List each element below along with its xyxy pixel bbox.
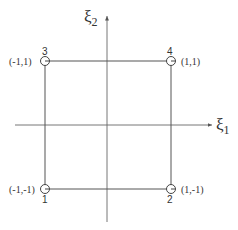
node-1-coords: (-1,-1) <box>9 184 35 196</box>
node-4-number: 4 <box>167 46 173 57</box>
node-3-coords: (-1,1) <box>9 56 32 68</box>
node-2-coords: (1,-1) <box>181 184 204 196</box>
node-4-coords: (1,1) <box>181 56 200 68</box>
node-3-number: 3 <box>42 46 48 57</box>
xi2-axis-label: ξ2 <box>84 7 98 29</box>
node-1-number: 1 <box>42 194 48 205</box>
xi1-axis-label: ξ1 <box>216 115 230 137</box>
node-2-number: 2 <box>167 194 173 205</box>
diagram-canvas: 3 4 1 2 (-1,1) (1,1) (-1,-1) (1,-1) ξ2 ξ… <box>0 0 238 230</box>
